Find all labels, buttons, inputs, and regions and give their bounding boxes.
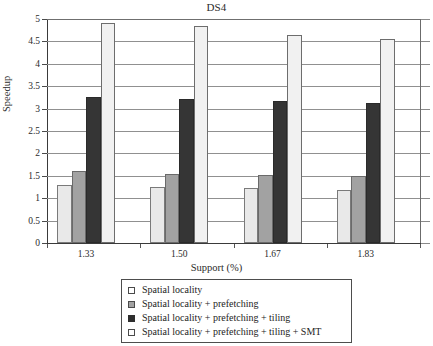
y-tick-label: 4 [14, 59, 40, 69]
x-axis-title: Support (%) [0, 262, 433, 273]
bar [72, 171, 87, 243]
y-tick-label: 3.5 [14, 81, 40, 91]
plot-area [47, 19, 420, 243]
right-tick-mark [421, 131, 430, 132]
bar [86, 97, 101, 243]
bar [244, 188, 259, 243]
y-tick-label: 1 [14, 193, 40, 203]
bar [273, 101, 288, 243]
bar [337, 190, 352, 243]
bar [366, 103, 381, 243]
right-tick-mark [421, 176, 430, 177]
bar [287, 35, 302, 243]
y-tick-label: 3 [14, 104, 40, 114]
x-tick-mark [234, 244, 235, 248]
x-tick-mark [47, 244, 48, 248]
right-tick-mark [421, 109, 430, 110]
x-tick-label: 1.83 [357, 249, 374, 259]
x-tick-label: 1.33 [78, 249, 95, 259]
x-tick-mark [140, 244, 141, 248]
x-tick-label: 1.67 [264, 249, 281, 259]
legend-swatch-icon [128, 315, 135, 322]
right-tick-mark [421, 19, 430, 20]
x-tick-mark [327, 244, 328, 248]
y-axis-tick-labels: 00.511.522.533.544.55 [12, 19, 40, 244]
legend-swatch-icon [128, 329, 135, 336]
right-tick-mark [421, 153, 430, 154]
y-tick-label: 2 [14, 148, 40, 158]
legend-label: Spatial locality + prefetching + tiling [142, 312, 290, 324]
y-tick-label: 2.5 [14, 126, 40, 136]
bar [380, 39, 395, 243]
right-tick-mark [421, 221, 430, 222]
legend-swatch-icon [128, 301, 135, 308]
chart-container: DS4 Speedup 00.511.522.533.544.55 1.331.… [0, 0, 433, 346]
legend-label: Spatial locality [142, 284, 202, 296]
legend-item[interactable]: Spatial locality [128, 283, 345, 297]
legend-item[interactable]: Spatial locality + prefetching + tiling [128, 311, 345, 325]
legend-label: Spatial locality + prefetching [142, 298, 258, 310]
bar [101, 23, 116, 243]
bar [258, 175, 273, 243]
y-axis-title: Speedup [1, 98, 12, 112]
y-tick-label: 4.5 [14, 36, 40, 46]
x-tick-mark [420, 244, 421, 248]
right-tick-mark [421, 64, 430, 65]
right-tick-mark [421, 243, 430, 244]
bar [351, 176, 366, 243]
right-tick-mark [421, 198, 430, 199]
y-tick-label: 0.5 [14, 216, 40, 226]
right-tick-mark [421, 41, 430, 42]
right-tick-mark [421, 86, 430, 87]
y-tick-label: 5 [14, 14, 40, 24]
legend: Spatial locality Spatial locality + pref… [121, 279, 352, 343]
bar [165, 174, 180, 243]
legend-label: Spatial locality + prefetching + tiling … [142, 326, 321, 338]
gridline [47, 19, 420, 20]
y-tick-label: 1.5 [14, 171, 40, 181]
bar [179, 99, 194, 243]
bar [57, 185, 72, 243]
chart-title: DS4 [0, 1, 433, 13]
bar [194, 26, 209, 243]
legend-swatch-icon [128, 287, 135, 294]
bar [150, 187, 165, 243]
legend-item[interactable]: Spatial locality + prefetching [128, 297, 345, 311]
x-tick-label: 1.50 [171, 249, 188, 259]
legend-item[interactable]: Spatial locality + prefetching + tiling … [128, 325, 345, 339]
y-tick-label: 0 [14, 238, 40, 248]
